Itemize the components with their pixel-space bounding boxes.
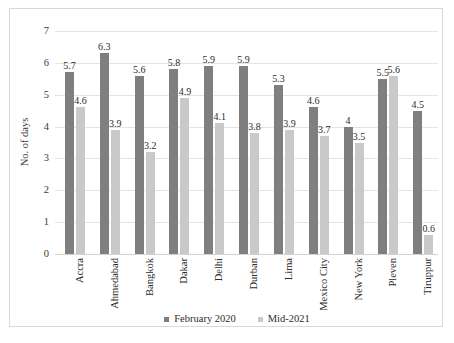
x-axis-category-label: New York [354, 258, 365, 301]
x-axis-category-label: Lima [284, 258, 295, 280]
bar-value-label: 5.9 [237, 55, 250, 65]
x-axis-category-label: Accra [75, 258, 86, 283]
bar-value-label: 5.9 [203, 55, 216, 65]
bar-group: 5.94.1Delhi [194, 31, 229, 254]
bar-value-label: 5.3 [272, 74, 285, 84]
bar-february-2020[interactable]: 6.3 [100, 53, 109, 254]
bar-group: 4.63.7Mexico City [299, 31, 334, 254]
x-axis-category-label: Bangkok [145, 258, 156, 296]
bar-mid-2021[interactable]: 4.1 [215, 123, 224, 254]
bar-group: 5.74.6Accra [55, 31, 90, 254]
bar-value-label: 3.9 [283, 119, 296, 129]
bar-mid-2021[interactable]: 4.9 [180, 98, 189, 254]
bar-mid-2021[interactable]: 3.9 [111, 130, 120, 254]
bar-february-2020[interactable]: 4 [344, 127, 353, 254]
bar-value-label: 4.5 [411, 100, 424, 110]
bar-value-label: 3.8 [248, 122, 261, 132]
legend-item[interactable]: February 2020 [164, 314, 236, 325]
bar-value-label: 4.6 [74, 96, 87, 106]
bar-value-label: 3.9 [109, 119, 122, 129]
x-axis-category-label: Ahmedabad [110, 258, 121, 309]
x-axis-category-label: Dakar [179, 258, 190, 284]
bar-chart-figure: No. of days 765432105.74.6Accra6.33.9Ahm… [0, 0, 454, 343]
bar-value-label: 0.6 [422, 224, 435, 234]
bar-february-2020[interactable]: 5.7 [65, 72, 74, 254]
chart-frame: No. of days 765432105.74.6Accra6.33.9Ahm… [9, 8, 443, 327]
bar-mid-2021[interactable]: 3.8 [250, 133, 259, 254]
bar-mid-2021[interactable]: 3.7 [320, 136, 329, 254]
bar-group: 5.93.8Durban [229, 31, 264, 254]
bar-value-label: 4.9 [179, 87, 192, 97]
bar-mid-2021[interactable]: 4.6 [76, 107, 85, 254]
chart-legend: February 2020Mid-2021 [10, 314, 454, 325]
legend-item[interactable]: Mid-2021 [258, 314, 310, 325]
legend-swatch-icon [164, 317, 169, 322]
bar-value-label: 4.1 [214, 112, 227, 122]
y-axis-title: No. of days [19, 118, 30, 167]
x-axis-category-label: Durban [249, 258, 260, 290]
legend-label: February 2020 [174, 314, 236, 325]
y-axis-tick-label: 6 [44, 58, 49, 69]
bar-group: 6.33.9Ahmedabad [90, 31, 125, 254]
y-axis-tick-label: 5 [44, 89, 49, 100]
y-axis-tick-label: 4 [44, 121, 49, 132]
bar-group: 43.5New York [334, 31, 369, 254]
legend-label: Mid-2021 [268, 314, 310, 325]
bar-group: 5.84.9Dakar [159, 31, 194, 254]
bar-group: 4.50.6Tiruppur [403, 31, 438, 254]
bar-group: 5.55.6Pleven [368, 31, 403, 254]
bar-value-label: 4.6 [307, 96, 320, 106]
y-axis-tick-label: 0 [44, 249, 49, 260]
y-axis-tick-label: 2 [44, 185, 49, 196]
x-axis-category-label: Pleven [388, 258, 399, 287]
bar-value-label: 3.7 [318, 125, 331, 135]
bar-february-2020[interactable]: 4.5 [413, 111, 422, 254]
bar-value-label: 3.2 [144, 141, 157, 151]
y-axis-tick-label: 7 [44, 26, 49, 37]
bar-group: 5.33.9Lima [264, 31, 299, 254]
bar-mid-2021[interactable]: 0.6 [424, 235, 433, 254]
bar-value-label: 6.3 [98, 42, 111, 52]
y-axis-tick-label: 3 [44, 153, 49, 164]
y-axis-tick-label: 1 [44, 217, 49, 228]
bar-mid-2021[interactable]: 3.2 [146, 152, 155, 254]
x-axis-category-label: Mexico City [319, 258, 330, 311]
bar-february-2020[interactable]: 4.6 [309, 107, 318, 254]
bar-mid-2021[interactable]: 5.6 [389, 76, 398, 254]
plot-area: 765432105.74.6Accra6.33.9Ahmedabad5.63.2… [55, 31, 438, 254]
bar-february-2020[interactable]: 5.9 [204, 66, 213, 254]
bar-february-2020[interactable]: 5.5 [378, 79, 387, 254]
bar-february-2020[interactable]: 5.6 [135, 76, 144, 254]
bar-february-2020[interactable]: 5.9 [239, 66, 248, 254]
bar-february-2020[interactable]: 5.8 [169, 69, 178, 254]
bar-mid-2021[interactable]: 3.5 [355, 143, 364, 255]
x-axis-category-label: Delhi [214, 258, 225, 281]
bar-mid-2021[interactable]: 3.9 [285, 130, 294, 254]
bar-group: 5.63.2Bangkok [125, 31, 160, 254]
bar-value-label: 4 [346, 116, 351, 126]
bar-value-label: 5.6 [388, 65, 401, 75]
bar-february-2020[interactable]: 5.3 [274, 85, 283, 254]
bar-value-label: 5.8 [168, 58, 181, 68]
x-axis-category-label: Tiruppur [423, 258, 434, 295]
gridline [55, 254, 438, 255]
legend-swatch-icon [258, 317, 263, 322]
bar-value-label: 5.7 [63, 61, 76, 71]
bar-value-label: 5.6 [133, 65, 146, 75]
bar-value-label: 3.5 [353, 132, 366, 142]
